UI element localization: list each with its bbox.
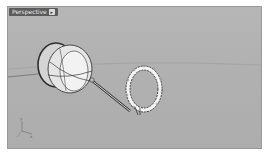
ring-object-selected[interactable]: [126, 65, 163, 115]
shaft-object[interactable]: [90, 78, 130, 111]
svg-text:x: x: [30, 134, 33, 139]
scene-canvas[interactable]: x y: [8, 7, 261, 148]
viewport-title: Perspective: [12, 8, 47, 16]
svg-text:y: y: [20, 116, 23, 121]
world-axis-icon: x y: [17, 116, 33, 139]
viewport-title-tab[interactable]: Perspective ▸: [9, 8, 58, 16]
perspective-viewport[interactable]: Perspective ▸: [7, 6, 262, 149]
viewport-menu-caret-icon[interactable]: ▸: [49, 9, 55, 15]
handle-body-object[interactable]: [38, 43, 92, 93]
